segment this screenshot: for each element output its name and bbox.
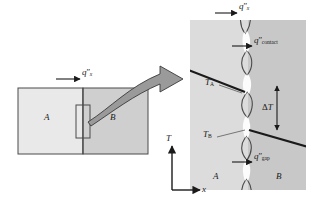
temp-b-sub: B: [208, 133, 212, 139]
delta-t-label: ΔT: [262, 103, 273, 112]
gap-flux-label: q″gap: [254, 152, 270, 162]
gap-flux-sub: gap: [262, 155, 270, 161]
contact-flux-label: q″contact: [254, 36, 278, 46]
temp-b-label: TB: [203, 130, 212, 140]
x-axis-label: x: [202, 185, 206, 194]
magnified-panel: [186, 6, 312, 202]
left-material-b-label: B: [110, 113, 116, 122]
left-heat-flux-label: q″x: [82, 68, 92, 78]
left-flux-sub: x: [90, 71, 92, 77]
panel-flux-sub: x: [247, 5, 249, 11]
panel-heat-flux-label: q″x: [239, 2, 249, 12]
temperature-axis-label: T: [166, 134, 171, 143]
delta-t-t: T: [268, 102, 273, 112]
figure-root: A B q″x q″x q″contact q″gap TA TB ΔT A B…: [0, 0, 316, 217]
temp-a-sub: A: [210, 81, 214, 87]
left-composite-wall: [18, 79, 148, 154]
material-a-block: [18, 88, 83, 154]
panel-material-a-label: A: [213, 172, 219, 181]
panel-material-b-label: B: [276, 172, 282, 181]
left-material-a-label: A: [44, 113, 50, 122]
contact-flux-sub: contact: [262, 39, 278, 45]
temp-a-label: TA: [205, 78, 214, 88]
